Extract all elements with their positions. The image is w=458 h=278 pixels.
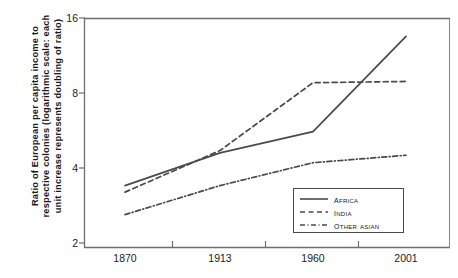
legend-item-india[interactable]: India — [299, 205, 399, 218]
legend-item-other-asian[interactable]: Other Asian — [299, 218, 399, 231]
legend-label-india: India — [334, 206, 352, 218]
legend-label-other-asian: Other Asian — [334, 219, 379, 231]
series-line-africa — [125, 36, 406, 185]
legend: Africa India Other Asian — [293, 188, 404, 233]
legend-swatch-other-asian — [299, 219, 329, 231]
chart-container: Ratio of European per capita income to r… — [0, 0, 458, 278]
legend-item-africa[interactable]: Africa — [299, 192, 399, 205]
series-line-india — [125, 81, 406, 192]
legend-swatch-india — [299, 206, 329, 218]
plot-area — [0, 0, 458, 278]
legend-label-africa: Africa — [334, 193, 358, 205]
legend-swatch-africa — [299, 193, 329, 205]
